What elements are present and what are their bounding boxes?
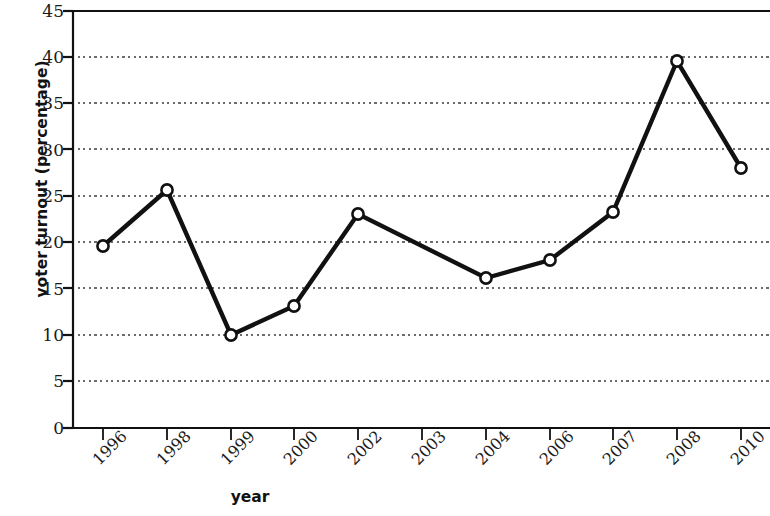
x-tick-label: 1998 [142, 416, 205, 479]
x-axis-tick-labels: 1996 1998 1999 2000 2002 2003 2004 2006 … [0, 0, 770, 516]
x-tick-label: 2008 [652, 416, 715, 479]
x-tick-label: 2007 [588, 416, 651, 479]
x-axis-title: year [0, 488, 500, 506]
x-tick-label: 2010 [716, 416, 770, 479]
x-tick-label: 2002 [333, 416, 396, 479]
x-tick-label: 2004 [461, 416, 524, 479]
x-tick-label: 1996 [78, 416, 141, 479]
x-tick-label: 1999 [206, 416, 269, 479]
chart-figure: voter turnout (percentage) 45 40 35 30 2… [0, 0, 770, 516]
x-tick-label: 2000 [269, 416, 332, 479]
x-tick-label: 2003 [397, 416, 460, 479]
x-tick-label: 2006 [525, 416, 588, 479]
